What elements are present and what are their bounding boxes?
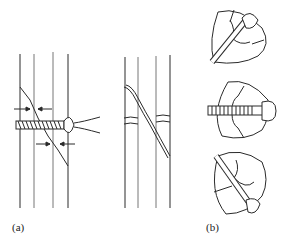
panel-a-right-bone <box>124 55 170 208</box>
panel-b-section-top <box>212 10 266 63</box>
panel-a-left-bone <box>14 52 100 208</box>
panel-b-label: (b) <box>206 221 219 233</box>
bone-screw-figure <box>0 0 284 239</box>
panel-a-label: (a) <box>12 221 24 233</box>
panel-b-section-bottom <box>214 152 266 214</box>
panel-b-section-middle <box>208 81 276 138</box>
